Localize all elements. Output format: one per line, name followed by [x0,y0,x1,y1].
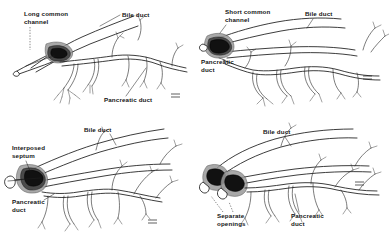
pancreatic-duct-trunk [42,189,162,202]
pancreatic-duct-label-line1: Pancreatic [12,198,45,205]
bile-duct-label: Bile duct [305,10,332,17]
panel-long-common-channel: Long common channel Bile duct Pancreatic… [0,0,194,118]
pancreatic-duct-trunk [223,60,380,80]
pancreatic-duct-label-line1: Pancreatic [291,212,324,219]
scale-mark-icon [355,182,364,185]
pancreatic-duct-branches [38,127,182,231]
leader-pancreatic-duct [295,194,299,212]
variant-label-line1: Separate [217,212,245,219]
panel-short-common-channel: Short common channel Bile duct Pancreati… [195,0,389,118]
scale-mark-icon [363,76,372,79]
pancreatic-duct-label-line2: duct [12,206,26,213]
ampulla-short-common-channel [199,33,234,58]
label-interposed-septum: Interposed septum [12,144,45,171]
variant-label-line1: Long common [24,10,68,17]
anatomical-figure: Long common channel Bile duct Pancreatic… [0,0,389,236]
pancreatic-duct-trunk [60,55,187,72]
scale-mark-icon [148,220,157,223]
pancreatic-duct-label-line2: duct [291,220,305,227]
leader-opening-pancreatic [229,202,233,212]
label-separate-openings: Separate openings [211,196,246,227]
variant-label-line1: Interposed [12,144,45,151]
pancreatic-duct-trunk [245,183,379,195]
panel-interposed-septum: Interposed septum Bile duct Pancreatic d… [0,118,194,236]
leader-short-common-channel [220,25,226,33]
bile-duct-label: Bile duct [263,128,290,135]
variant-label-line2: septum [12,152,35,159]
pancreatic-duct-arcades [245,22,389,106]
pancreatic-duct-label-line2: duct [201,66,215,73]
bile-duct-label: Bile duct [84,126,111,133]
label-bile-duct: Bile duct [84,126,116,145]
scale-mark-icon [171,94,180,97]
label-bile-duct: Bile duct [263,128,291,146]
ampulla-interposed-septum [5,164,48,193]
panel-separate-openings: Separate openings Bile duct Pancreatic d… [195,118,389,236]
ampulla-common-channel [13,42,72,76]
pancreatic-duct-label-line1: Pancreatic [201,58,234,65]
separate-openings-group [199,164,247,199]
leader-pancreatic-duct [126,68,146,96]
variant-label-line2: channel [225,16,250,23]
pancreatic-duct-label: Pancreatic duct [104,96,152,103]
label-bile-duct: Bile duct [305,10,332,28]
pancreatic-duct-branches [54,14,183,104]
leader-bile-duct [307,19,313,28]
leader-bile-duct [285,137,291,146]
variant-label-line1: Short common [225,8,271,15]
bile-duct-outline [217,129,357,176]
variant-label-line2: openings [217,220,246,227]
variant-label-line2: channel [24,18,49,25]
leader-bile-duct [100,15,120,26]
bile-duct-label: Bile duct [122,11,149,18]
